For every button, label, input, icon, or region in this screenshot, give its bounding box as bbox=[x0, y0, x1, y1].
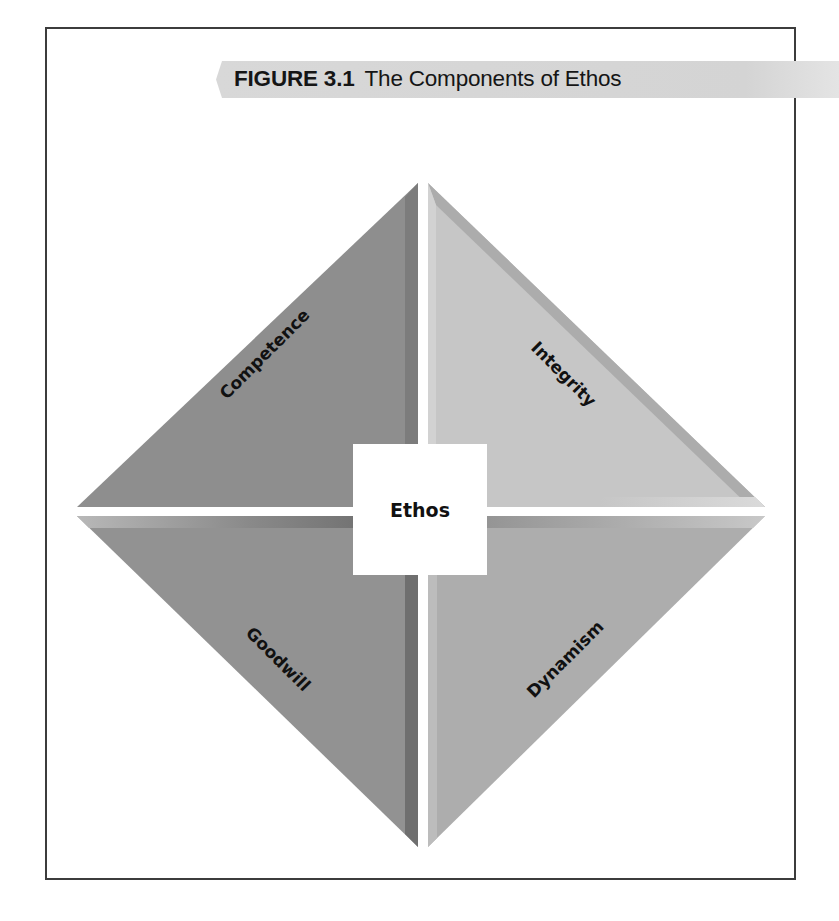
center-label: Ethos bbox=[390, 499, 450, 521]
center-box-ethos: Ethos bbox=[353, 444, 487, 575]
